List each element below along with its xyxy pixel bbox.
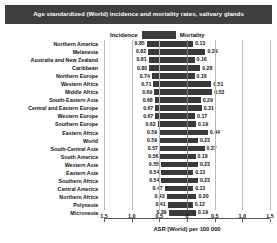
incidence-value: 0.82 xyxy=(136,48,146,55)
category-label: Northern Europe xyxy=(56,72,98,80)
incidence-value: 0.57 xyxy=(148,145,158,152)
chart-figure: Age standardized (World) incidence and m… xyxy=(0,0,277,243)
category-label-row: South-Central Asia xyxy=(0,145,101,153)
axis-tick-label: 1.0 xyxy=(239,213,247,219)
category-label: South-Central Asia xyxy=(51,145,98,153)
mortality-bar xyxy=(187,130,208,136)
mortality-bar xyxy=(187,57,195,63)
axis-tick-label: 0.5 xyxy=(211,213,219,219)
incidence-bar xyxy=(161,162,187,168)
category-label: Western Europe xyxy=(57,112,98,120)
category-label-row: Western Europe xyxy=(0,112,101,120)
mortality-value: 0.17 xyxy=(197,113,207,120)
category-label: South-Eastern Asia xyxy=(49,96,98,104)
category-label: South America xyxy=(61,153,98,161)
incidence-bar xyxy=(148,49,187,55)
axis-tick-label: 0.5 xyxy=(156,213,164,219)
category-label-row: South-Eastern Asia xyxy=(0,96,101,104)
incidence-value: 0.59 xyxy=(147,129,157,136)
axis-tick-mark xyxy=(270,219,271,222)
mortality-bar xyxy=(187,49,205,55)
incidence-bar xyxy=(161,170,187,176)
mortality-bar xyxy=(187,146,205,152)
category-label-row: Eastern Asia xyxy=(0,169,101,177)
category-label-row: Caribbean xyxy=(0,64,101,72)
incidence-value: 0.71 xyxy=(141,81,151,88)
mortality-bar xyxy=(187,162,198,168)
incidence-bar xyxy=(160,154,187,160)
incidence-value: 0.80 xyxy=(137,65,147,72)
incidence-value: 0.59 xyxy=(147,137,157,144)
mortality-bar xyxy=(187,178,198,184)
category-label-row: Southern Africa xyxy=(0,177,101,185)
category-label-row: Southern Europe xyxy=(0,120,101,128)
gridline xyxy=(270,40,271,210)
mortality-value: 0.23 xyxy=(200,161,210,168)
category-label-row: Polynesia xyxy=(0,201,101,209)
category-label-row: Central America xyxy=(0,185,101,193)
mortality-value: 0.23 xyxy=(200,177,210,184)
plot-area: 0.850.130.820.390.810.160.800.280.740.16… xyxy=(104,40,270,210)
incidence-bar xyxy=(149,57,187,63)
category-label: Central and Eastern Europe xyxy=(28,104,98,112)
category-label-row: World xyxy=(0,137,101,145)
mortality-value: 0.31 xyxy=(204,105,214,112)
category-label: Southern Europe xyxy=(55,120,98,128)
incidence-bar xyxy=(160,146,187,152)
gridline xyxy=(215,40,216,210)
gridline xyxy=(132,40,133,210)
gridline xyxy=(187,40,188,210)
category-label: Micronesia xyxy=(70,209,98,217)
axis-tick-label: 1.0 xyxy=(128,213,136,219)
category-label-row: Northern America xyxy=(0,40,101,48)
mortality-bar xyxy=(187,97,201,103)
mortality-bar xyxy=(187,194,196,200)
mortality-bar xyxy=(187,73,195,79)
incidence-value: 0.54 xyxy=(149,177,159,184)
mortality-value: 0.18 xyxy=(198,153,208,160)
legend-label-mortality: Mortality xyxy=(180,32,205,38)
category-label-row: Eastern Africa xyxy=(0,129,101,137)
category-axis-labels: Northern AmericaMelanesiaAustralia and N… xyxy=(0,40,101,217)
category-label: Melanesia xyxy=(73,48,98,56)
mortality-value: 0.29 xyxy=(203,97,213,104)
category-label: Australia and New Zealand xyxy=(31,56,98,64)
category-label: Caribbean xyxy=(72,64,98,72)
incidence-value: 0.68 xyxy=(143,97,153,104)
mortality-value: 0.16 xyxy=(197,73,207,80)
gridline xyxy=(159,40,160,210)
value-axis-tick-labels: 1.51.00.500.51.01.5 xyxy=(104,213,270,222)
category-label-row: Western Africa xyxy=(0,80,101,88)
category-label: Central America xyxy=(58,185,98,193)
incidence-bar xyxy=(158,121,187,127)
category-label: Western Africa xyxy=(61,80,98,88)
chart-legend: Incidence Mortality xyxy=(110,29,240,40)
mortality-value: 0.13 xyxy=(195,169,205,176)
incidence-value: 0.62 xyxy=(146,121,156,128)
axis-tick-label: 1.5 xyxy=(100,213,108,219)
mortality-value: 0.28 xyxy=(202,65,212,72)
incidence-bar xyxy=(168,202,187,208)
category-label: Eastern Asia xyxy=(66,169,98,177)
category-label-row: Northern Africa xyxy=(0,193,101,201)
incidence-value: 0.74 xyxy=(140,73,150,80)
mortality-value: 0.13 xyxy=(195,40,205,47)
legend-label-incidence: Incidence xyxy=(110,32,138,38)
incidence-value: 0.47 xyxy=(153,185,163,192)
mortality-bar xyxy=(187,81,211,87)
incidence-value: 0.41 xyxy=(155,201,165,208)
axis-tick-label: 0 xyxy=(186,213,189,219)
incidence-value: 0.67 xyxy=(143,105,153,112)
mortality-bar xyxy=(187,113,195,119)
category-label: Northern Africa xyxy=(59,193,98,201)
category-label-row: Middle Africa xyxy=(0,88,101,96)
incidence-value: 0.54 xyxy=(149,169,159,176)
page-title: Age standardized (World) incidence and m… xyxy=(5,5,272,24)
mortality-value: 0.12 xyxy=(195,201,205,208)
gridline xyxy=(242,40,243,210)
mortality-value: 0.39 xyxy=(207,48,217,55)
incidence-bar xyxy=(159,138,187,144)
category-label-row: Micronesia xyxy=(0,209,101,217)
mortality-value: 0.13 xyxy=(195,185,205,192)
incidence-bar xyxy=(159,130,187,136)
